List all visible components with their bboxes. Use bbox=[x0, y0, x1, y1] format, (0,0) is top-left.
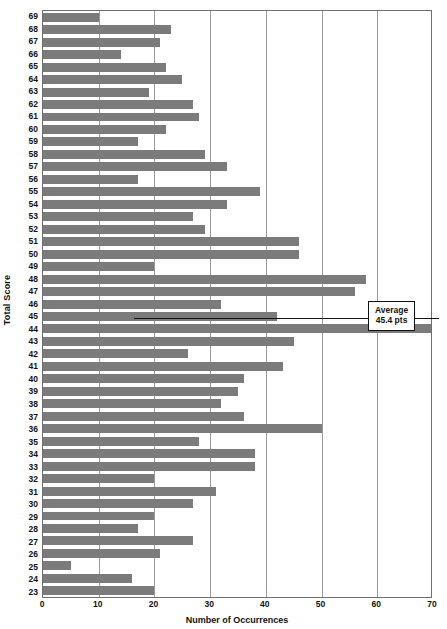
average-callout-box: Average 45.4 pts bbox=[368, 301, 415, 331]
y-tick-label: 57 bbox=[14, 160, 40, 173]
x-tick-label: 40 bbox=[260, 600, 269, 609]
x-tick-label: 30 bbox=[204, 600, 213, 609]
bar bbox=[43, 212, 193, 221]
bar-row bbox=[43, 86, 431, 98]
bar bbox=[43, 25, 171, 34]
bar bbox=[43, 586, 154, 595]
bar bbox=[43, 487, 216, 496]
bar-row bbox=[43, 398, 431, 410]
bar bbox=[43, 499, 193, 508]
x-tick-label: 10 bbox=[93, 600, 102, 609]
bar-row bbox=[43, 211, 431, 223]
bar bbox=[43, 150, 205, 159]
bar-row bbox=[43, 447, 431, 459]
y-tick-label: 45 bbox=[14, 310, 40, 323]
bar bbox=[43, 100, 193, 109]
bar-row bbox=[43, 510, 431, 522]
y-tick-label: 39 bbox=[14, 385, 40, 398]
y-tick-label: 50 bbox=[14, 248, 40, 261]
bar-row bbox=[43, 560, 431, 572]
y-tick-label: 49 bbox=[14, 260, 40, 273]
bar-row bbox=[43, 48, 431, 60]
bar bbox=[43, 524, 138, 533]
bar-row bbox=[43, 273, 431, 285]
y-tick-label: 65 bbox=[14, 60, 40, 73]
x-axis-tick-labels: 010203040506070 bbox=[42, 600, 432, 614]
bar bbox=[43, 474, 154, 483]
bar-row bbox=[43, 335, 431, 347]
x-tick-label: 70 bbox=[427, 600, 436, 609]
bar bbox=[43, 287, 355, 296]
bar-row bbox=[43, 235, 431, 247]
y-tick-label: 61 bbox=[14, 110, 40, 123]
bar-row bbox=[43, 36, 431, 48]
y-tick-label: 44 bbox=[14, 323, 40, 336]
bar-row bbox=[43, 572, 431, 584]
bar bbox=[43, 412, 244, 421]
bar bbox=[43, 137, 138, 146]
x-tick-label: 50 bbox=[316, 600, 325, 609]
bar bbox=[43, 449, 255, 458]
x-tick-label: 60 bbox=[372, 600, 381, 609]
bar bbox=[43, 250, 299, 259]
bar bbox=[43, 362, 283, 371]
bar bbox=[43, 38, 160, 47]
y-tick-label: 36 bbox=[14, 423, 40, 436]
bar bbox=[43, 125, 166, 134]
bar-row bbox=[43, 485, 431, 497]
bar bbox=[43, 574, 132, 583]
y-tick-label: 24 bbox=[14, 573, 40, 586]
y-tick-label: 52 bbox=[14, 223, 40, 236]
y-tick-label: 64 bbox=[14, 73, 40, 86]
x-axis-title: Number of Occurrences bbox=[42, 615, 432, 625]
bar bbox=[43, 387, 238, 396]
bar bbox=[43, 13, 99, 22]
bar-row bbox=[43, 373, 431, 385]
bar-row bbox=[43, 23, 431, 35]
bar bbox=[43, 512, 154, 521]
y-tick-label: 29 bbox=[14, 511, 40, 524]
y-tick-label: 33 bbox=[14, 461, 40, 474]
bar bbox=[43, 113, 199, 122]
bar-row bbox=[43, 61, 431, 73]
bar-row bbox=[43, 472, 431, 484]
y-tick-label: 28 bbox=[14, 523, 40, 536]
y-tick-label: 51 bbox=[14, 235, 40, 248]
y-axis-tick-labels: 6968676665646362616059585756555453525150… bbox=[14, 10, 40, 598]
bar-row bbox=[43, 285, 431, 297]
y-tick-label: 58 bbox=[14, 148, 40, 161]
bar bbox=[43, 399, 221, 408]
bar-row bbox=[43, 497, 431, 509]
y-tick-label: 27 bbox=[14, 536, 40, 549]
bar-row bbox=[43, 198, 431, 210]
y-tick-label: 68 bbox=[14, 23, 40, 36]
bar bbox=[43, 88, 149, 97]
bar bbox=[43, 237, 299, 246]
bar bbox=[43, 536, 193, 545]
y-tick-label: 66 bbox=[14, 48, 40, 61]
y-tick-label: 26 bbox=[14, 548, 40, 561]
bar-row bbox=[43, 161, 431, 173]
bar bbox=[43, 424, 322, 433]
bar-row bbox=[43, 73, 431, 85]
bar bbox=[43, 462, 255, 471]
y-tick-label: 46 bbox=[14, 298, 40, 311]
y-tick-label: 40 bbox=[14, 373, 40, 386]
bar bbox=[43, 50, 121, 59]
bar-row bbox=[43, 148, 431, 160]
x-tick-label: 20 bbox=[149, 600, 158, 609]
bar bbox=[43, 312, 277, 321]
bar bbox=[43, 225, 205, 234]
y-tick-label: 47 bbox=[14, 285, 40, 298]
y-tick-label: 38 bbox=[14, 398, 40, 411]
bar-row bbox=[43, 136, 431, 148]
y-tick-label: 54 bbox=[14, 198, 40, 211]
bar bbox=[43, 75, 182, 84]
y-tick-label: 69 bbox=[14, 10, 40, 23]
bar bbox=[43, 187, 260, 196]
y-tick-label: 31 bbox=[14, 486, 40, 499]
bar-row bbox=[43, 422, 431, 434]
y-tick-label: 37 bbox=[14, 411, 40, 424]
bar-row bbox=[43, 11, 431, 23]
y-tick-label: 41 bbox=[14, 360, 40, 373]
